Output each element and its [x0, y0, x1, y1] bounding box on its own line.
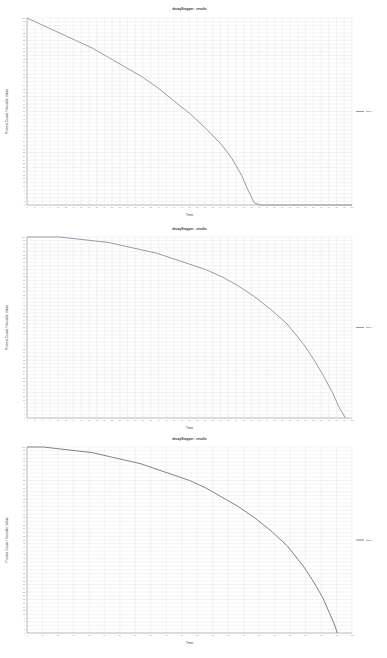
y-tick-label: 32 — [23, 359, 25, 361]
y-tick-label: 66 — [23, 297, 25, 299]
x-tick-label: 17 — [80, 419, 82, 421]
y-tick-label: 38 — [23, 133, 25, 135]
x-tick-label: 57 — [212, 419, 214, 421]
x-tick-label: 52 — [196, 419, 198, 421]
x-tick-label: 67 — [243, 634, 245, 636]
y-tick-label: 94 — [23, 28, 25, 30]
y-tick-label: 30 — [23, 362, 25, 364]
y-tick-label: 28 — [23, 580, 25, 582]
x-tick-label: 71 — [258, 206, 260, 208]
y-tick-label: 98 — [23, 449, 25, 451]
y-tick-label: 86 — [23, 43, 25, 45]
chart-title: decayStopper - results — [172, 7, 207, 11]
y-tick-label: 10 — [23, 399, 25, 401]
chart-3-canvas: 1009896949290888684828078767472706866646… — [0, 432, 387, 658]
x-tick-label: 57 — [212, 206, 214, 208]
x-tick-label: 86 — [305, 206, 307, 208]
y-tick-label: 22 — [23, 162, 25, 164]
x-tick-label: 55 — [204, 419, 206, 421]
y-tick-label: 42 — [23, 553, 25, 555]
y-tick-label: 16 — [23, 602, 25, 604]
x-tick-label: 76 — [274, 634, 276, 636]
y-tick-label: 74 — [23, 494, 25, 496]
y-tick-label: 14 — [23, 606, 25, 608]
y-tick-label: 0 — [24, 632, 25, 634]
x-tick-label: 100 — [351, 206, 354, 208]
x-tick-label: 83 — [297, 206, 299, 208]
y-tick-label: 76 — [23, 490, 25, 492]
x-tick-label: 55 — [204, 206, 206, 208]
x-tick-label: 74 — [266, 206, 268, 208]
y-tick-label: 46 — [23, 118, 25, 120]
x-tick-label: 48 — [181, 419, 183, 421]
x-tick-label: 33 — [134, 206, 136, 208]
y-tick-label: 60 — [23, 520, 25, 522]
y-tick-label: 44 — [23, 121, 25, 123]
x-tick-label: 69 — [250, 419, 252, 421]
legend-label: DECAY — [366, 539, 374, 541]
y-tick-label: 62 — [23, 88, 25, 90]
y-tick-label: 80 — [23, 483, 25, 485]
y-tick-label: 98 — [23, 20, 25, 22]
y-tick-label: 14 — [23, 391, 25, 393]
x-tick-label: 71 — [258, 419, 260, 421]
x-tick-label: 0 — [27, 206, 28, 208]
y-tick-label: 56 — [23, 527, 25, 529]
x-tick-label: 79 — [281, 206, 283, 208]
x-tick-label: 71 — [258, 634, 260, 636]
y-tick-label: 12 — [23, 609, 25, 611]
y-tick-label: 2 — [24, 413, 25, 415]
y-tick-label: 90 — [23, 35, 25, 37]
y-tick-label: 84 — [23, 265, 25, 267]
y-tick-label: 58 — [23, 524, 25, 526]
y-tick-label: 40 — [23, 344, 25, 346]
y-tick-label: 30 — [23, 576, 25, 578]
x-tick-label: 76 — [274, 206, 276, 208]
y-tick-label: 16 — [23, 174, 25, 176]
y-tick-label: 92 — [23, 460, 25, 462]
x-tick-label: 88 — [312, 419, 314, 421]
chart-1: 1009896949290888684828078767472706866646… — [0, 0, 387, 222]
y-tick-label: 46 — [23, 546, 25, 548]
x-tick-label: 5 — [42, 206, 43, 208]
x-tick-label: 21 — [96, 419, 98, 421]
y-tick-label: 78 — [23, 275, 25, 277]
chart-3: 1009896949290888684828078767472706866646… — [0, 432, 387, 658]
y-tick-label: 88 — [23, 39, 25, 41]
x-tick-label: 36 — [142, 206, 144, 208]
chart-title: decayStopper - results — [172, 227, 207, 231]
x-tick-label: 31 — [127, 419, 129, 421]
y-tick-label: 100 — [22, 446, 25, 448]
y-tick-label: 48 — [23, 114, 25, 116]
y-tick-label: 4 — [24, 196, 25, 198]
x-tick-label: 38 — [150, 634, 152, 636]
x-tick-label: 95 — [336, 634, 338, 636]
y-tick-label: 2 — [24, 628, 25, 630]
y-tick-label: 64 — [23, 84, 25, 86]
x-tick-label: 43 — [165, 419, 167, 421]
x-tick-label: 38 — [150, 419, 152, 421]
x-tick-label: 81 — [289, 419, 291, 421]
y-tick-label: 26 — [23, 370, 25, 372]
y-tick-label: 90 — [23, 464, 25, 466]
y-tick-label: 52 — [23, 322, 25, 324]
x-tick-label: 10 — [57, 634, 59, 636]
x-tick-label: 29 — [119, 206, 121, 208]
x-tick-label: 43 — [165, 634, 167, 636]
chart-1-canvas: 1009896949290888684828078767472706866646… — [0, 0, 387, 222]
y-tick-label: 8 — [24, 189, 25, 191]
y-tick-label: 64 — [23, 301, 25, 303]
y-tick-label: 30 — [23, 148, 25, 150]
x-tick-label: 2 — [34, 419, 35, 421]
y-tick-label: 4 — [24, 409, 25, 411]
x-tick-label: 64 — [235, 419, 237, 421]
x-tick-label: 45 — [173, 206, 175, 208]
y-tick-label: 18 — [23, 170, 25, 172]
x-tick-label: 86 — [305, 634, 307, 636]
y-tick-label: 82 — [23, 50, 25, 52]
y-tick-label: 26 — [23, 155, 25, 157]
x-tick-label: 93 — [328, 419, 330, 421]
x-tick-label: 26 — [111, 206, 113, 208]
y-tick-label: 32 — [23, 144, 25, 146]
y-tick-label: 12 — [23, 395, 25, 397]
